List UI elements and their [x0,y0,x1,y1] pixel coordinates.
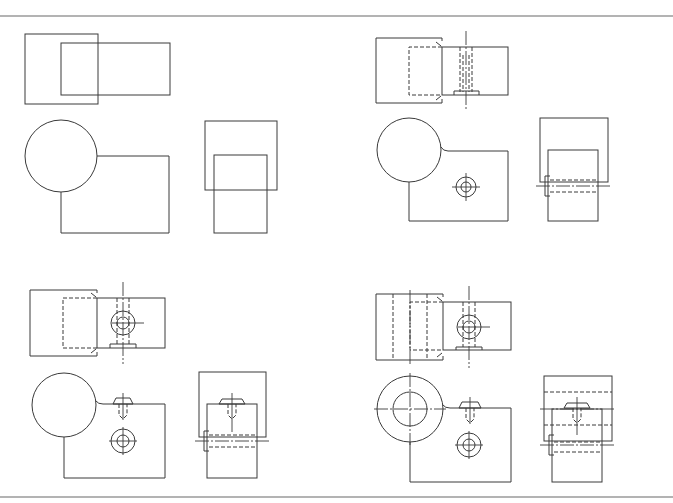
panel-4-top-view [376,286,511,368]
panel-1-top-view [25,34,170,104]
panel-4-side-view [540,376,616,482]
panel-2 [376,31,611,221]
panel-1-front-view [25,120,169,233]
panel-3-top-view [30,282,165,364]
panel-4-front-view [374,373,511,482]
panel-3-side-view [195,372,270,478]
panel-3 [30,282,270,478]
panel-2-front-view [377,118,508,221]
panel-2-side-view [536,118,611,221]
panel-3-front-view [32,373,165,478]
panel-1 [25,34,277,233]
panel-4 [374,286,616,482]
panel-2-top-view [376,31,508,111]
technical-drawing [0,0,673,503]
panel-1-side-view [205,121,277,233]
